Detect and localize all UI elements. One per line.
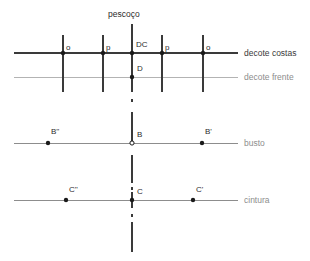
point-p-right-label: p — [165, 44, 169, 52]
point-o-right-label: o — [206, 44, 210, 52]
point-o-left-label: o — [66, 44, 70, 52]
point-dc-label: DC — [136, 41, 148, 49]
point-c-right-label: C' — [196, 186, 203, 194]
axis-label-decote-costas: decote costas — [244, 49, 296, 58]
point-c — [130, 198, 134, 202]
point-o-right — [201, 51, 205, 55]
axis-label-busto: busto — [244, 139, 265, 148]
axis-label-cintura: cintura — [244, 196, 270, 205]
point-c-left-label: C'' — [69, 186, 78, 194]
point-b-label: B — [137, 131, 142, 139]
point-b — [130, 141, 134, 145]
points-group — [46, 51, 205, 202]
point-o-left — [61, 51, 65, 55]
point-p-left — [101, 51, 105, 55]
point-p-right — [160, 51, 164, 55]
point-b-right-label: B' — [205, 128, 212, 136]
point-b-right — [200, 141, 204, 145]
vertical-lines-group — [63, 24, 203, 252]
point-d — [130, 75, 134, 79]
pattern-diagram: pescoço decote costasdecote frentebustoc… — [0, 0, 310, 261]
diagram-canvas — [0, 0, 310, 261]
point-b-left-label: B'' — [51, 128, 59, 136]
point-p-left-label: p — [106, 44, 110, 52]
point-d-label: D — [137, 65, 143, 73]
point-c-label: C — [137, 188, 143, 196]
point-c-right — [191, 198, 195, 202]
point-c-left — [64, 198, 68, 202]
neck-title-label: pescoço — [108, 10, 140, 19]
point-b-left — [46, 141, 50, 145]
point-dc — [130, 51, 134, 55]
axis-label-decote-frente: decote frente — [244, 73, 294, 82]
